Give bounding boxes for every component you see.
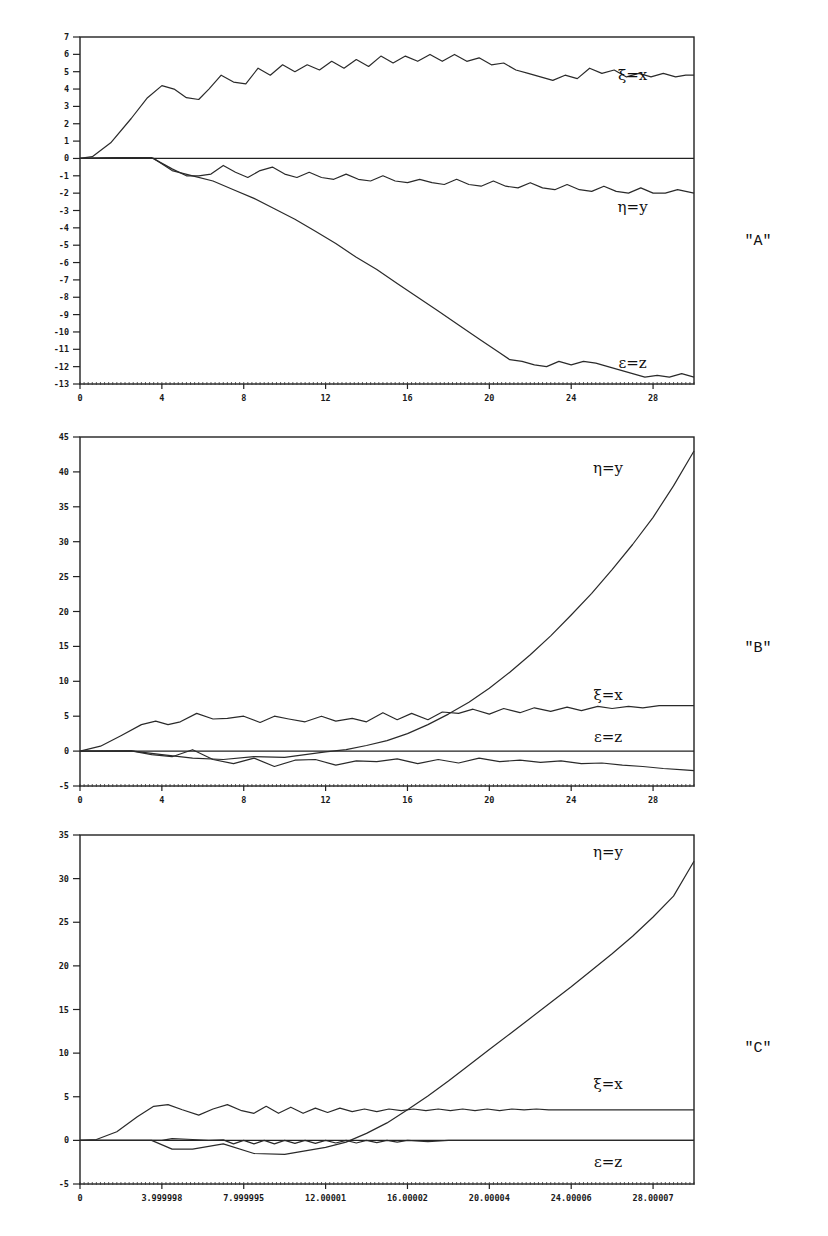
y-tick-label: 15: [59, 641, 69, 651]
x-tick-label: 3.999998: [141, 1193, 182, 1203]
y-tick-label: 40: [59, 467, 69, 477]
series-label: ξ=x: [593, 686, 623, 704]
series-label: η=y: [593, 843, 624, 861]
x-tick-label: 28: [648, 795, 658, 805]
x-tick-label: 8: [241, 795, 246, 805]
y-tick-label: 5: [64, 711, 69, 721]
y-tick-label: 20: [59, 607, 69, 617]
x-tick-label: 12.00001: [305, 1193, 346, 1203]
y-tick-label: 35: [59, 830, 69, 840]
y-tick-label: -1: [59, 171, 69, 181]
y-tick-label: 10: [59, 1048, 69, 1058]
y-tick-label: 10: [59, 676, 69, 686]
plot-frame: [80, 835, 694, 1184]
y-tick-label: -8: [59, 292, 69, 302]
y-tick-label: 30: [59, 537, 69, 547]
y-tick-label: -5: [59, 781, 69, 791]
x-tick-label: 24: [566, 393, 576, 403]
x-tick-label: 24: [566, 795, 576, 805]
x-tick-label: 8: [241, 393, 246, 403]
x-tick-label: 20.00004: [469, 1193, 510, 1203]
x-tick-label: 24.00006: [551, 1193, 592, 1203]
y-tick-label: -3: [59, 206, 69, 216]
chart-a: 76543210-1-2-3-4-5-6-7-8-9-10-11-12-1304…: [54, 32, 694, 403]
x-tick-label: 12: [320, 393, 330, 403]
y-tick-label: 45: [59, 432, 69, 442]
figure-svg: 76543210-1-2-3-4-5-6-7-8-9-10-11-12-1304…: [0, 0, 828, 1236]
x-tick-label: 28: [648, 393, 658, 403]
series-line: [80, 54, 694, 158]
y-tick-label: -13: [54, 379, 69, 389]
x-tick-label: 0: [77, 1193, 82, 1203]
panel-label-c: "C": [744, 1040, 771, 1057]
series-label: ξ=x: [618, 66, 648, 84]
y-tick-label: 30: [59, 874, 69, 884]
y-tick-label: 2: [64, 119, 69, 129]
x-tick-label: 12: [320, 795, 330, 805]
chart-b: 454035302520151050-50481216202428η=yξ=xε…: [59, 432, 694, 805]
x-tick-label: 16.00002: [387, 1193, 428, 1203]
y-tick-label: -5: [59, 1179, 69, 1189]
y-tick-label: 1: [64, 136, 69, 146]
y-tick-label: 4: [64, 84, 69, 94]
y-tick-label: -2: [59, 188, 69, 198]
x-tick-label: 4: [159, 393, 164, 403]
series-label: ε=z: [594, 728, 622, 746]
panel-label-b: "B": [744, 640, 771, 657]
y-tick-label: -11: [54, 344, 69, 354]
y-tick-label: 0: [64, 1135, 69, 1145]
x-tick-label: 20: [484, 393, 494, 403]
panel-label-a: "A": [744, 233, 771, 250]
y-tick-label: -6: [59, 258, 69, 268]
x-tick-label: 20: [484, 795, 494, 805]
y-tick-label: 3: [64, 101, 69, 111]
y-tick-label: 15: [59, 1005, 69, 1015]
series-label: ε=z: [594, 1153, 622, 1171]
chart-c: 35302520151050-503.9999987.99999512.0000…: [59, 830, 694, 1203]
y-tick-label: -5: [59, 240, 69, 250]
series-line: [80, 158, 694, 378]
series-label: ε=z: [618, 354, 646, 372]
series-line: [80, 750, 694, 771]
series-line: [80, 1139, 694, 1144]
y-tick-label: 20: [59, 961, 69, 971]
x-tick-label: 16: [402, 393, 412, 403]
x-tick-label: 4: [159, 795, 164, 805]
y-tick-label: 0: [64, 153, 69, 163]
series-label: η=y: [618, 198, 649, 216]
series-line: [80, 158, 694, 194]
y-tick-label: 5: [64, 67, 69, 77]
y-tick-label: 0: [64, 746, 69, 756]
y-tick-label: 7: [64, 32, 69, 42]
series-label: η=y: [593, 459, 624, 477]
series-label: ξ=x: [593, 1075, 623, 1093]
y-tick-label: -9: [59, 310, 69, 320]
y-tick-label: -12: [54, 362, 69, 372]
y-tick-label: 5: [64, 1092, 69, 1102]
x-tick-label: 0: [77, 795, 82, 805]
y-tick-label: 25: [59, 572, 69, 582]
y-tick-label: -7: [59, 275, 69, 285]
y-tick-label: -10: [54, 327, 69, 337]
y-tick-label: -4: [59, 223, 69, 233]
x-tick-label: 7.999995: [223, 1193, 264, 1203]
figure: 76543210-1-2-3-4-5-6-7-8-9-10-11-12-1304…: [0, 0, 828, 1236]
y-tick-label: 35: [59, 502, 69, 512]
x-tick-label: 28.00007: [633, 1193, 674, 1203]
series-line: [80, 451, 694, 760]
x-tick-label: 0: [77, 393, 82, 403]
x-tick-label: 16: [402, 795, 412, 805]
y-tick-label: 6: [64, 49, 69, 59]
y-tick-label: 25: [59, 917, 69, 927]
